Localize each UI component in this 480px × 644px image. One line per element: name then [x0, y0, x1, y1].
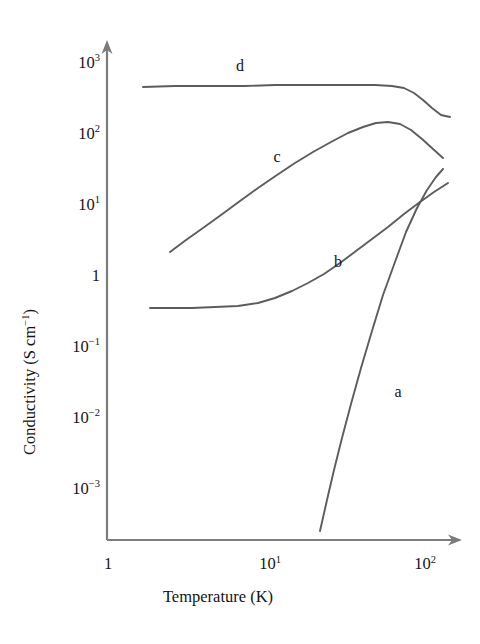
plot-canvas: [0, 0, 480, 644]
curve-label-c: c: [273, 149, 280, 165]
curve-label-b: b: [334, 254, 342, 270]
curve-b: [150, 183, 448, 308]
curve-c: [170, 122, 443, 252]
curve-label-a: a: [394, 384, 401, 400]
x-axis-title: Temperature (K): [163, 589, 273, 606]
y-tick-label: 1: [92, 268, 100, 285]
y-tick-label: 10−2: [72, 410, 100, 427]
y-tick-label: 10−3: [72, 481, 100, 498]
y-axis-title: Conductivity (S cm−1): [22, 309, 39, 455]
conductivity-vs-temperature-figure: 103 102 101 1 10−1 10−2 10−3 1 101 102 C…: [0, 0, 480, 644]
x-tick-label: 1: [104, 556, 112, 573]
curve-label-d: d: [236, 58, 244, 74]
y-tick-label: 10−1: [72, 339, 100, 356]
x-tick-label: 102: [414, 556, 436, 573]
y-tick-label: 101: [78, 197, 100, 214]
curve-d: [143, 85, 450, 117]
y-tick-label: 103: [78, 55, 100, 72]
curve-a: [320, 169, 443, 531]
y-tick-label: 102: [78, 126, 100, 143]
x-tick-label: 101: [259, 556, 281, 573]
